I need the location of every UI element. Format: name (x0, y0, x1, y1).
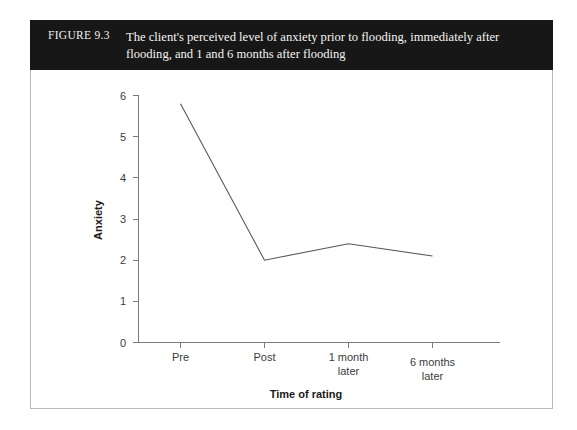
y-tick-label-2: 2 (120, 254, 126, 266)
y-tick-label-0: 0 (120, 337, 126, 349)
x-tick-label-pre: Pre (172, 351, 189, 363)
anxiety-series-line (181, 104, 433, 260)
anxiety-line-chart: 0 1 2 3 4 5 6 Anxiety Pre Post 1 month l… (30, 70, 553, 409)
y-axis-tick-labels: 0 1 2 3 4 5 6 (120, 90, 126, 349)
x-tick-label-post: Post (253, 351, 275, 363)
y-tick-label-3: 3 (120, 213, 126, 225)
x-tick-label-6-months-line1: 6 months (410, 356, 456, 368)
figure-caption-bar: FIGURE 9.3 The client's perceived level … (30, 20, 553, 70)
figure-title-text: The client's perceived level of anxiety … (126, 29, 553, 62)
y-axis-ticks (133, 96, 139, 343)
y-axis-title: Anxiety (92, 199, 104, 240)
x-tick-label-6-months-line2: later (422, 370, 444, 382)
y-tick-label-4: 4 (120, 172, 126, 184)
x-axis-ticks (181, 343, 433, 349)
figure-number-label: FIGURE 9.3 (30, 29, 126, 41)
x-tick-label-1-month-line1: 1 month (329, 351, 369, 363)
x-tick-label-1-month-line2: later (338, 365, 360, 377)
x-axis-tick-labels: Pre Post 1 month later 6 months later (172, 351, 456, 382)
y-tick-label-5: 5 (120, 131, 126, 143)
y-tick-label-6: 6 (120, 90, 126, 102)
x-axis-title: Time of rating (270, 388, 343, 400)
y-tick-label-1: 1 (120, 295, 126, 307)
chart-plot-area: 0 1 2 3 4 5 6 Anxiety Pre Post 1 month l… (30, 70, 553, 409)
